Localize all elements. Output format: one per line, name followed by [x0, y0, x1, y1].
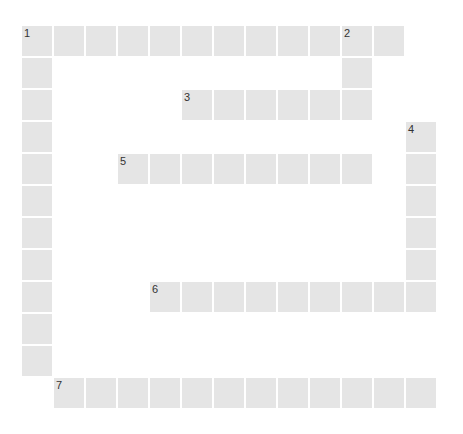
clue-number: 2: [344, 27, 350, 39]
crossword-cell[interactable]: [374, 26, 404, 56]
crossword-cell[interactable]: [214, 154, 244, 184]
crossword-cell[interactable]: [22, 282, 52, 312]
crossword-cell[interactable]: [406, 154, 436, 184]
crossword-cell[interactable]: [246, 282, 276, 312]
crossword-cell[interactable]: [406, 282, 436, 312]
crossword-cell[interactable]: [278, 154, 308, 184]
crossword-cell[interactable]: [22, 122, 52, 152]
clue-number: 7: [56, 379, 62, 391]
crossword-cell[interactable]: [22, 314, 52, 344]
crossword-cell[interactable]: [22, 250, 52, 280]
crossword-cell[interactable]: [150, 26, 180, 56]
crossword-cell[interactable]: [182, 378, 212, 408]
crossword-cell[interactable]: [278, 90, 308, 120]
crossword-cell[interactable]: [22, 154, 52, 184]
crossword-cell[interactable]: [246, 90, 276, 120]
crossword-cell[interactable]: [214, 378, 244, 408]
crossword-cell[interactable]: [86, 26, 116, 56]
crossword-cell[interactable]: [22, 346, 52, 376]
crossword-cell[interactable]: 6: [150, 282, 180, 312]
crossword-cell[interactable]: 4: [406, 122, 436, 152]
crossword-cell[interactable]: [214, 90, 244, 120]
crossword-cell[interactable]: [246, 378, 276, 408]
crossword-cell[interactable]: [342, 90, 372, 120]
crossword-cell[interactable]: [118, 378, 148, 408]
crossword-cell[interactable]: [150, 378, 180, 408]
crossword-cell[interactable]: [22, 186, 52, 216]
crossword-cell[interactable]: [310, 90, 340, 120]
crossword-cell[interactable]: [278, 282, 308, 312]
crossword-cell[interactable]: [310, 154, 340, 184]
crossword-cell[interactable]: [374, 378, 404, 408]
clue-number: 1: [24, 27, 30, 39]
crossword-cell[interactable]: [214, 26, 244, 56]
crossword-cell[interactable]: 1: [22, 26, 52, 56]
crossword-cell[interactable]: [278, 26, 308, 56]
clue-number: 5: [120, 155, 126, 167]
crossword-cell[interactable]: [278, 378, 308, 408]
crossword-cell[interactable]: [246, 154, 276, 184]
clue-number: 3: [184, 91, 190, 103]
crossword-cell[interactable]: [342, 154, 372, 184]
crossword-cell[interactable]: [54, 26, 84, 56]
crossword-cell[interactable]: [310, 378, 340, 408]
crossword-cell[interactable]: [182, 282, 212, 312]
crossword-cell[interactable]: [22, 90, 52, 120]
clue-number: 6: [152, 283, 158, 295]
crossword-cell[interactable]: [22, 58, 52, 88]
crossword-grid: 1234567: [0, 0, 463, 434]
crossword-cell[interactable]: 3: [182, 90, 212, 120]
crossword-cell[interactable]: [406, 218, 436, 248]
crossword-cell[interactable]: [22, 218, 52, 248]
crossword-cell[interactable]: [406, 186, 436, 216]
crossword-cell[interactable]: [374, 282, 404, 312]
crossword-cell[interactable]: [150, 154, 180, 184]
crossword-cell[interactable]: [182, 154, 212, 184]
crossword-cell[interactable]: [310, 26, 340, 56]
crossword-cell[interactable]: [86, 378, 116, 408]
crossword-cell[interactable]: 2: [342, 26, 372, 56]
crossword-cell[interactable]: [406, 378, 436, 408]
crossword-cell[interactable]: [342, 282, 372, 312]
crossword-cell[interactable]: [342, 378, 372, 408]
crossword-cell[interactable]: [406, 250, 436, 280]
crossword-cell[interactable]: 5: [118, 154, 148, 184]
crossword-cell[interactable]: [342, 58, 372, 88]
crossword-cell[interactable]: [182, 26, 212, 56]
clue-number: 4: [408, 123, 414, 135]
crossword-cell[interactable]: [214, 282, 244, 312]
crossword-cell[interactable]: [246, 26, 276, 56]
crossword-cell[interactable]: [310, 282, 340, 312]
crossword-cell[interactable]: 7: [54, 378, 84, 408]
crossword-cell[interactable]: [118, 26, 148, 56]
